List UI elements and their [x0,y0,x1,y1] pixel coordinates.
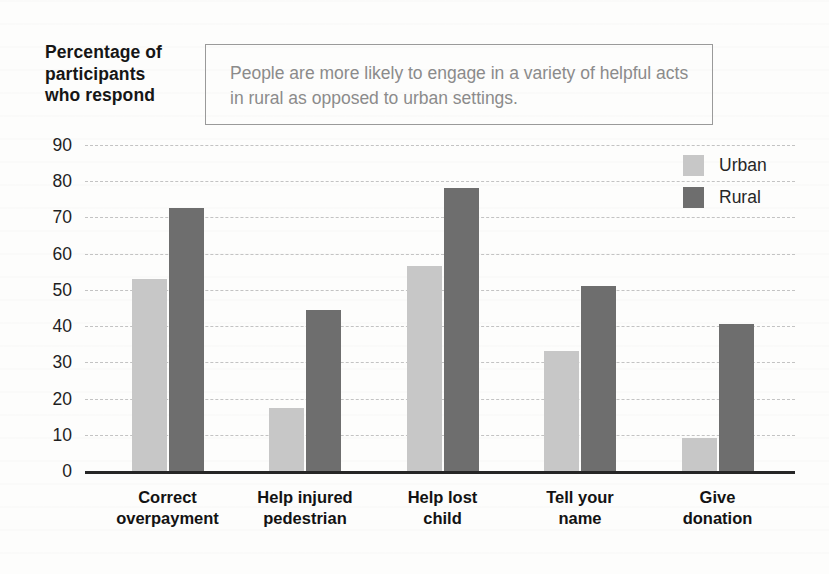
bar-rural-2 [306,310,341,471]
y-tick-label-30: 30 [26,352,72,373]
bar-urban-1 [132,279,167,471]
x-axis-baseline [85,471,795,474]
y-tick-label-70: 70 [26,207,72,228]
category-label-4: Tell your name [505,487,655,528]
bar-rural-4 [581,286,616,471]
category-label-5: Give donation [643,487,793,528]
bar-urban-5 [682,438,717,471]
y-tick-label-50: 50 [26,280,72,301]
y-tick-label-60: 60 [26,244,72,265]
y-tick-label-90: 90 [26,135,72,156]
bar-rural-1 [169,208,204,471]
y-tick-label-20: 20 [26,389,72,410]
y-tick-label-0: 0 [26,461,72,482]
y-tick-label-80: 80 [26,171,72,192]
category-label-2: Help injured pedestrian [230,487,380,528]
y-tick-label-10: 10 [26,425,72,446]
plot-area: 0102030405060708090Correct overpaymentHe… [0,0,829,574]
bar-urban-2 [269,408,304,471]
bar-urban-4 [544,351,579,471]
category-label-1: Correct overpayment [93,487,243,528]
y-tick-label-40: 40 [26,316,72,337]
gridline-80 [85,181,795,182]
chart-figure: Percentage of participants who respond P… [0,0,829,574]
bar-rural-3 [444,188,479,471]
bar-urban-3 [407,266,442,471]
bar-rural-5 [719,324,754,471]
category-label-3: Help lost child [368,487,518,528]
gridline-90 [85,145,795,146]
